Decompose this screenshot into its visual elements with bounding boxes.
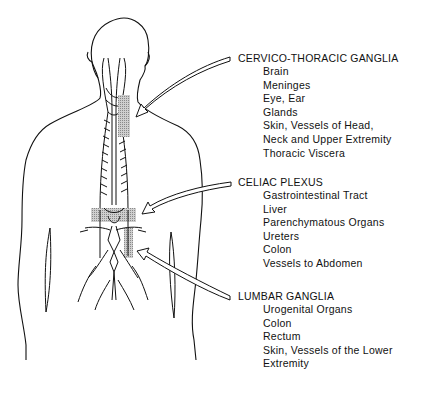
list-item: Ureters: [263, 230, 384, 244]
callout-title: CELIAC PLEXUS: [238, 176, 384, 189]
callout-cervico-thoracic: CERVICO-THORACIC GANGLIA Brain Meninges …: [238, 52, 398, 160]
cervico-thoracic-shading: [118, 95, 130, 137]
callout-items: Gastrointestinal Tract Liver Parenchymat…: [238, 189, 384, 271]
celiac-shading: [91, 208, 136, 222]
celiac-plexus: [78, 208, 148, 310]
list-item: Colon: [263, 317, 393, 331]
list-item: Colon: [263, 243, 384, 257]
callout-lumbar-ganglia: LUMBAR GANGLIA Urogenital Organs Colon R…: [238, 290, 393, 371]
list-item: Gastrointestinal Tract: [263, 189, 384, 203]
arrow-cervico-thoracic: [136, 57, 230, 117]
list-item: Glands: [263, 106, 398, 120]
list-item: Neck and Upper Extremity: [263, 133, 398, 147]
arrow-celiac: [142, 182, 231, 214]
callout-title: CERVICO-THORACIC GANGLIA: [238, 52, 398, 65]
list-item: Liver: [263, 203, 384, 217]
arrow-lumbar: [137, 248, 230, 300]
list-item: Parenchymatous Organs: [263, 216, 384, 230]
list-item: Meninges: [263, 79, 398, 93]
callout-items: Brain Meninges Eye, Ear Glands Skin, Ves…: [238, 65, 398, 160]
sympathetic-ganglia-diagram: CERVICO-THORACIC GANGLIA Brain Meninges …: [0, 0, 433, 393]
callout-celiac-plexus: CELIAC PLEXUS Gastrointestinal Tract Liv…: [238, 176, 384, 271]
callout-arrows: [136, 57, 231, 300]
flank-creases: [45, 228, 175, 318]
list-item: Rectum: [263, 330, 393, 344]
callout-title: LUMBAR GANGLIA: [238, 290, 393, 303]
list-item: Urogenital Organs: [263, 303, 393, 317]
list-item: Brain: [263, 65, 398, 79]
callout-items: Urogenital Organs Colon Rectum Skin, Ves…: [238, 303, 393, 371]
list-item: Thoracic Viscera: [263, 147, 398, 161]
list-item: Extremity: [263, 357, 393, 371]
list-item: Skin, Vessels of the Lower: [263, 344, 393, 358]
list-item: Eye, Ear: [263, 92, 398, 106]
list-item: Skin, Vessels of Head,: [263, 119, 398, 133]
list-item: Vessels to Abdomen: [263, 257, 384, 271]
